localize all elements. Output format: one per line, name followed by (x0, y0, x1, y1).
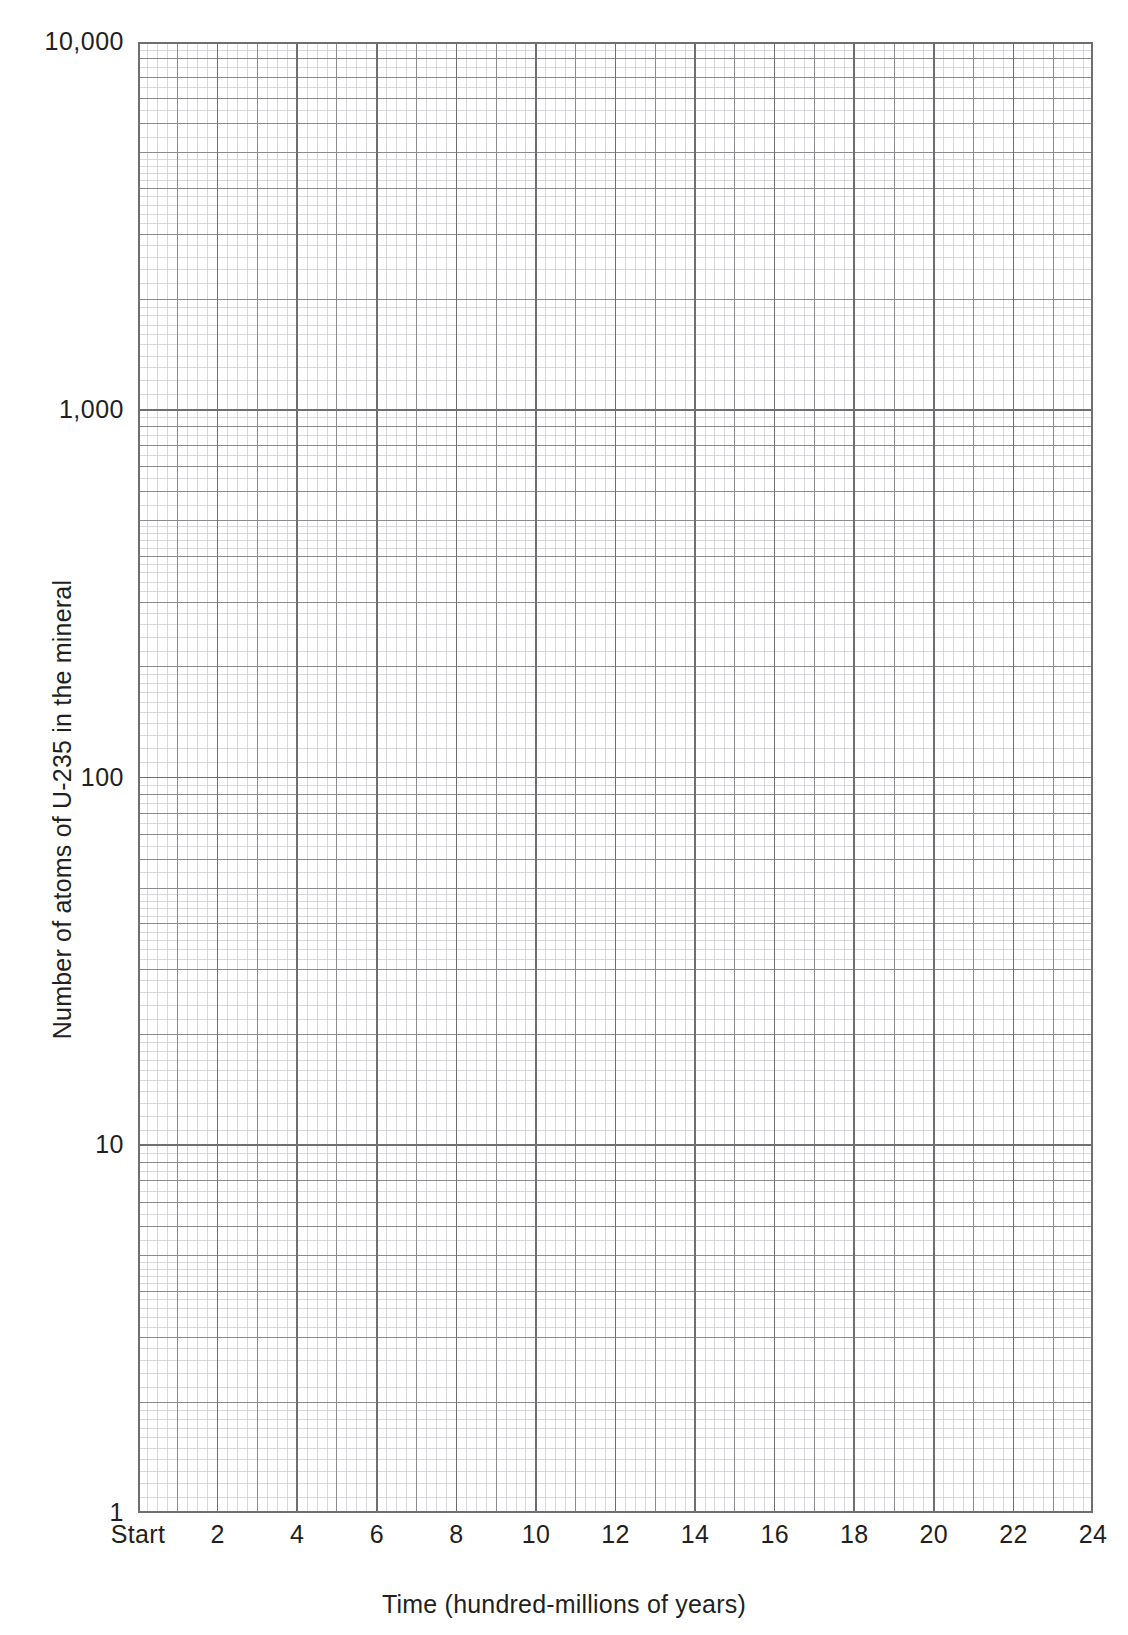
x-tick-label-20: 20 (920, 1522, 948, 1547)
x-axis-title: Time (hundred-millions of years) (0, 1590, 1128, 1619)
x-tick-label-start: Start (111, 1522, 165, 1547)
x-tick-label-22: 22 (999, 1522, 1027, 1547)
x-tick-label-24: 24 (1079, 1522, 1107, 1547)
y-tick-label-1000: 1,000 (0, 397, 124, 422)
y-axis-title: Number of atoms of U-235 in the mineral (48, 430, 77, 1190)
x-tick-label-6: 6 (370, 1522, 384, 1547)
grid-canvas (138, 42, 1093, 1513)
y-axis-title-wrapper: Number of atoms of U-235 in the mineral (0, 795, 442, 829)
x-tick-label-8: 8 (449, 1522, 463, 1547)
x-tick-label-10: 10 (522, 1522, 550, 1547)
cropped-caption-fragment (0, 0, 1128, 3)
x-tick-label-2: 2 (210, 1522, 224, 1547)
decade-gridlines (138, 42, 1093, 1513)
y-tick-label-10000: 10,000 (0, 29, 124, 54)
x-tick-label-16: 16 (760, 1522, 788, 1547)
x-axis-tick-labels: Start24681012141618202224 (0, 1522, 1128, 1562)
x-tick-label-14: 14 (681, 1522, 709, 1547)
x-tick-label-18: 18 (840, 1522, 868, 1547)
semilog-plot-area (138, 42, 1093, 1513)
x-tick-label-12: 12 (601, 1522, 629, 1547)
x-tick-label-4: 4 (290, 1522, 304, 1547)
figure-page: 10,0001,000100101 Start24681012141618202… (0, 0, 1128, 1635)
